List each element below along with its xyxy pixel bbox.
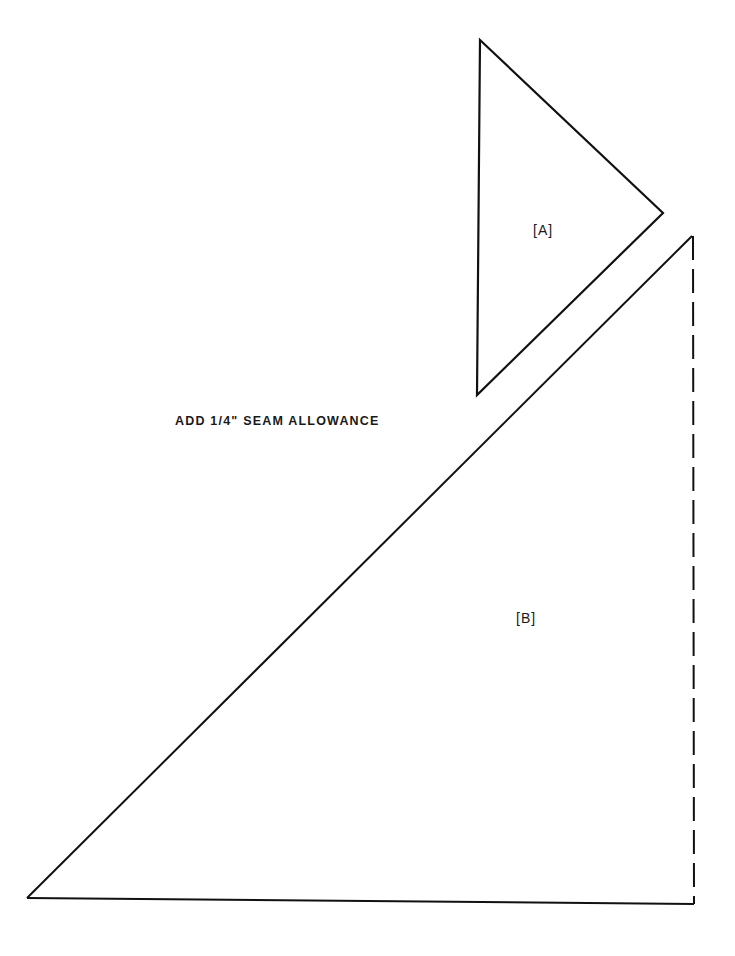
- piece-b-label: [B]: [516, 610, 536, 626]
- pattern-canvas: [0, 0, 735, 956]
- piece-a-label: [A]: [533, 222, 553, 238]
- piece-a-outline: [477, 40, 663, 395]
- piece-b-fold-line: [693, 236, 694, 904]
- piece-b-hypotenuse: [27, 236, 692, 898]
- seam-allowance-instruction: ADD 1/4" SEAM ALLOWANCE: [175, 414, 380, 428]
- piece-b-base: [27, 898, 694, 904]
